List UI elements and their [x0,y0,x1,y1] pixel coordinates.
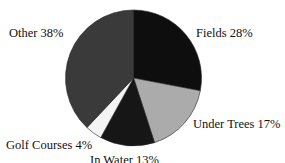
pie-slice-fields [134,10,202,91]
label-under-trees: Under Trees 17% [193,118,281,131]
label-fields: Fields 28% [196,27,253,40]
label-other: Other 38% [9,27,64,40]
label-in-water: In Water 13% [90,154,159,163]
label-golf-courses: Golf Courses 4% [6,139,92,152]
